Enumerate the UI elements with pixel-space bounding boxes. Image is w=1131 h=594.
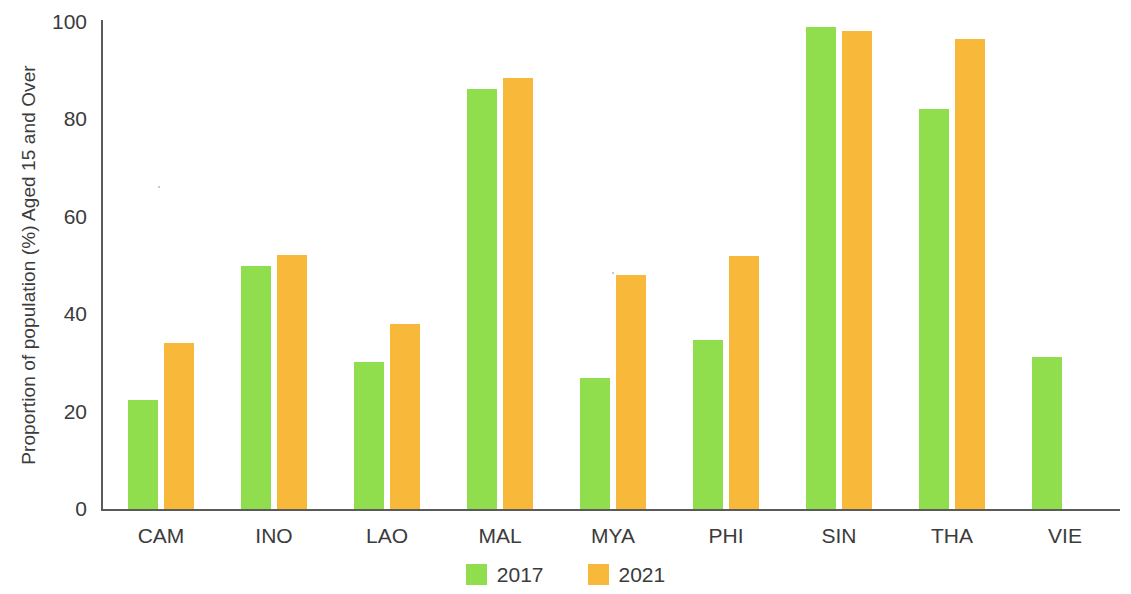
bar-mal-2017[interactable] (467, 89, 497, 509)
legend-swatch-icon (588, 564, 609, 585)
bar-sin-2017[interactable] (806, 27, 836, 509)
bar-mya-2017[interactable] (580, 378, 610, 509)
bar-phi-2017[interactable] (693, 340, 723, 509)
legend-label: 2021 (619, 564, 666, 585)
bar-sin-2021[interactable] (842, 31, 872, 509)
bar-group (806, 22, 876, 509)
y-axis-ticks: 100806040200 (0, 0, 101, 594)
legend-label: 2017 (497, 564, 544, 585)
bar-mal-2021[interactable] (503, 78, 533, 509)
x-axis-ticks: CAMINOLAOMALMYAPHISINTHAVIE (101, 524, 1120, 556)
x-tick-label-phi: PHI (666, 524, 786, 548)
x-axis-line (101, 509, 1120, 511)
bar-vie-2017[interactable] (1032, 357, 1062, 509)
y-tick-label: 20 (23, 400, 101, 424)
y-tick-label: 40 (23, 302, 101, 326)
legend-swatch-icon (466, 564, 487, 585)
bar-group (467, 22, 537, 509)
y-tick-label: 100 (23, 10, 101, 34)
x-tick-label-sin: SIN (779, 524, 899, 548)
bar-tha-2017[interactable] (919, 109, 949, 509)
scan-speck (158, 186, 160, 188)
bar-group (580, 22, 650, 509)
x-tick-label-vie: VIE (1005, 524, 1125, 548)
bar-group (919, 22, 989, 509)
bar-lao-2021[interactable] (390, 324, 420, 509)
bar-lao-2017[interactable] (354, 362, 384, 509)
bar-tha-2021[interactable] (955, 39, 985, 509)
legend-item-2021[interactable]: 2021 (588, 564, 666, 585)
bar-group (354, 22, 424, 509)
bar-cam-2021[interactable] (164, 343, 194, 509)
bar-ino-2021[interactable] (277, 255, 307, 509)
bar-chart: Proportion of population (%) Aged 15 and… (0, 0, 1131, 594)
bar-cam-2017[interactable] (128, 400, 158, 509)
bar-phi-2021[interactable] (729, 256, 759, 509)
bar-group (241, 22, 311, 509)
chart-legend: 20172021 (0, 564, 1131, 585)
x-tick-label-mya: MYA (553, 524, 673, 548)
legend-item-2017[interactable]: 2017 (466, 564, 544, 585)
bar-group (1032, 22, 1102, 509)
bar-ino-2017[interactable] (241, 266, 271, 509)
x-tick-label-cam: CAM (101, 524, 221, 548)
x-tick-label-lao: LAO (327, 524, 447, 548)
bar-groups (101, 22, 1120, 509)
y-tick-label: 80 (23, 107, 101, 131)
x-tick-label-mal: MAL (440, 524, 560, 548)
bar-group (128, 22, 198, 509)
bar-mya-2021[interactable] (616, 275, 646, 509)
y-tick-label: 0 (23, 497, 101, 521)
scan-speck (612, 272, 614, 274)
x-tick-label-ino: INO (214, 524, 334, 548)
y-tick-label: 60 (23, 205, 101, 229)
x-tick-label-tha: THA (892, 524, 1012, 548)
bar-group (693, 22, 763, 509)
